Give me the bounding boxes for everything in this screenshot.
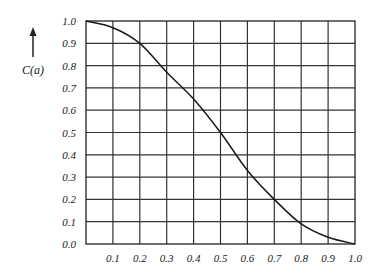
- y-tick-label: 0.7: [62, 82, 76, 94]
- y-tick-label: 0.8: [62, 60, 76, 72]
- x-tick-label: 0.4: [187, 252, 201, 264]
- up-arrow-icon: [30, 27, 37, 57]
- y-tick-label: 0.4: [62, 149, 76, 161]
- y-axis-ticks: 1.00.90.80.70.60.50.40.30.20.10.0: [62, 15, 76, 250]
- x-tick-label: 0.2: [133, 252, 147, 264]
- chart: 1.00.90.80.70.60.50.40.30.20.10.0 0.10.2…: [0, 0, 382, 273]
- x-tick-label: 0.3: [160, 252, 174, 264]
- x-tick-label: 0.9: [321, 252, 335, 264]
- y-tick-label: 0.5: [62, 127, 76, 139]
- y-axis-label: C(a): [22, 63, 44, 77]
- y-tick-label: 1.0: [62, 15, 76, 27]
- x-tick-label: 0.8: [294, 252, 308, 264]
- y-tick-label: 0.6: [62, 104, 76, 116]
- x-tick-label: 0.5: [214, 252, 228, 264]
- y-tick-label: 0.1: [62, 216, 76, 228]
- y-tick-label: 0.0: [62, 238, 76, 250]
- x-tick-label: 1.0: [348, 252, 362, 264]
- y-tick-label: 0.2: [62, 193, 76, 205]
- y-tick-label: 0.3: [62, 171, 76, 183]
- y-tick-label: 0.9: [62, 37, 76, 49]
- x-tick-label: 0.7: [267, 252, 281, 264]
- x-tick-label: 0.1: [106, 252, 120, 264]
- x-tick-label: 0.6: [241, 252, 255, 264]
- x-axis-ticks: 0.10.20.30.40.50.60.70.80.91.0: [106, 252, 362, 264]
